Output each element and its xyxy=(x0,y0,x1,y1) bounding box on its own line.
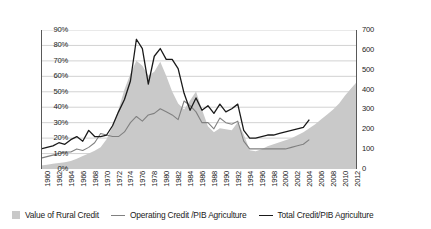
plot-area xyxy=(41,30,357,169)
y-axis-left-tick-label: 50% xyxy=(34,88,68,96)
x-axis-tick-label: 1990 xyxy=(223,171,231,187)
x-axis-tick-label: 2000 xyxy=(282,171,290,187)
legend-label: Value of Rural Credit xyxy=(25,210,99,220)
area-swatch-icon xyxy=(12,211,20,219)
x-axis-tick-label: 1972 xyxy=(116,171,124,187)
x-axis-tick-label: 1984 xyxy=(187,171,195,187)
x-axis-tick-label: 1978 xyxy=(151,171,159,187)
y-axis-right-tick-label: 500 xyxy=(362,66,388,74)
legend-label: Operating Credit /PIB Agriculture xyxy=(130,210,247,220)
x-axis-tick-label: 1996 xyxy=(259,171,267,187)
legend-item-operating-credit: Operating Credit /PIB Agriculture xyxy=(111,210,247,220)
y-axis-right-tick-label: 200 xyxy=(362,125,388,133)
x-axis-tick-label: 2002 xyxy=(294,171,302,187)
x-axis-tick-label: 1994 xyxy=(247,171,255,187)
y-axis-right-tick-label: 300 xyxy=(362,105,388,113)
y-axis-right-tick-label: 600 xyxy=(362,46,388,54)
y-axis-left-tick-label: 60% xyxy=(34,72,68,80)
y-axis-left-tick-label: 80% xyxy=(34,41,68,49)
x-axis-tick-label: 1968 xyxy=(92,171,100,187)
x-axis-tick-label: 1986 xyxy=(199,171,207,187)
chart-legend: Value of Rural Credit Operating Credit /… xyxy=(12,208,424,222)
x-axis-tick-label: 1966 xyxy=(80,171,88,187)
x-axis-tick-label: 2006 xyxy=(318,171,326,187)
x-axis-tick-label: 2008 xyxy=(330,171,338,187)
x-axis-tick-label: 1962 xyxy=(56,171,64,187)
x-axis-tick-label: 1974 xyxy=(127,171,135,187)
x-axis-tick-label: 1964 xyxy=(68,171,76,187)
y-axis-left-tick-label: 30% xyxy=(34,119,68,127)
y-axis-left-tick-label: 70% xyxy=(34,57,68,65)
x-axis-tick-label: 2012 xyxy=(354,171,362,187)
line-swatch-icon xyxy=(111,215,125,216)
plot-svg xyxy=(41,30,357,169)
x-axis-tick-label: 1980 xyxy=(163,171,171,187)
legend-item-value-of-rural-credit: Value of Rural Credit xyxy=(12,210,99,220)
x-axis-tick-label: 2010 xyxy=(342,171,350,187)
x-axis-tick-label: 1992 xyxy=(235,171,243,187)
y-axis-left-tick-label: 90% xyxy=(34,26,68,34)
rural-credit-chart: 1960196219641966196819701972197419761978… xyxy=(0,0,431,229)
legend-label: Total Credit/PIB Agriculture xyxy=(278,210,374,220)
y-axis-right-title: Value Real pf Rural Credit (1966–1970 = … xyxy=(391,2,431,16)
x-axis-tick-label: 1988 xyxy=(211,171,219,187)
y-axis-left-tick-label: 20% xyxy=(34,134,68,142)
x-axis-tick-label: 1960 xyxy=(44,171,52,187)
legend-item-total-credit: Total Credit/PIB Agriculture xyxy=(259,210,374,220)
y-axis-right-tick-label: 700 xyxy=(362,26,388,34)
x-axis-tick-label: 1976 xyxy=(139,171,147,187)
y-axis-right-tick-label: 100 xyxy=(362,145,388,153)
x-axis-tick-label: 2004 xyxy=(306,171,314,187)
x-axis-tick-label: 1998 xyxy=(271,171,279,187)
y-axis-left-tick-label: 10% xyxy=(34,150,68,158)
x-axis-tick-label: 1970 xyxy=(104,171,112,187)
y-axis-left-tick-label: 40% xyxy=(34,103,68,111)
line-swatch-icon xyxy=(259,215,273,216)
y-axis-left-tick-label: 0% xyxy=(34,165,68,173)
y-axis-right-tick-label: 400 xyxy=(362,86,388,94)
series-area-value-of-rural-credit xyxy=(41,61,357,169)
x-axis-labels: 1960196219641966196819701972197419761978… xyxy=(41,171,357,205)
y-axis-right-tick-label: 0 xyxy=(362,165,388,173)
x-axis-tick-label: 1982 xyxy=(175,171,183,187)
